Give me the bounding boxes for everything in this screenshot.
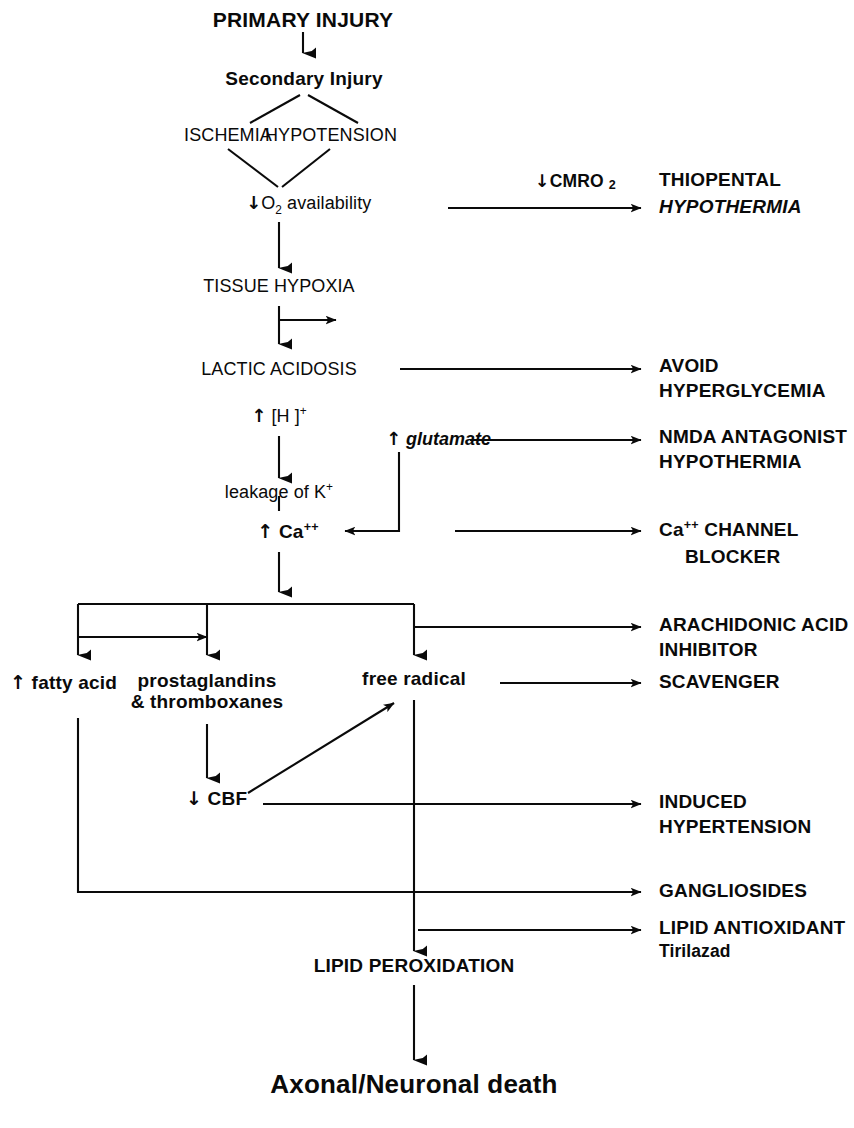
up-arrow-glyph: ↑ (251, 405, 266, 426)
label-arachidonic-acid: ARACHIDONIC ACID (659, 614, 848, 635)
label-ca-channel: Ca++ CHANNEL (659, 519, 799, 540)
node-cbf-decrease: ↓ CBF (186, 788, 247, 809)
label-tirilazad: Tirilazad (659, 942, 731, 962)
down-arrow-glyph: ↓ (246, 192, 261, 213)
ca-superscript: ++ (684, 518, 699, 532)
up-arrow-glyph: ↑ (386, 428, 401, 449)
glutamate-label: glutamate (401, 429, 491, 449)
node-calcium-increase: ↑ Ca++ (257, 521, 318, 542)
label-cmro2-decrease: ↓CMRO2 (535, 172, 616, 192)
node-h-ion-increase: ↑ [H ]+ (251, 406, 307, 426)
node-free-radical: free radical (362, 668, 466, 689)
down-arrow-glyph: ↓ (535, 171, 550, 191)
calcium-label: Ca (273, 521, 303, 542)
node-glutamate-increase: ↑ glutamate (386, 429, 491, 449)
o2-subscript: 2 (275, 203, 282, 217)
label-induced: INDUCED (659, 791, 747, 812)
node-leakage-of-k: leakage of K+ (225, 482, 333, 502)
edge-secondary-to-ischemia (250, 95, 300, 123)
edge-glutamate-to-calcium (345, 452, 399, 531)
label-hypothermia-thiopental: HYPOTHERMIA (659, 196, 802, 217)
h-ion-superscript: + (300, 404, 307, 418)
label-gangliosides: GANGLIOSIDES (659, 880, 807, 901)
prostaglandins-line-1: prostaglandins (131, 670, 284, 691)
cmro2-subscript: 2 (604, 178, 616, 192)
flowchart-canvas: PRIMARY INJURY Secondary Injury ISCHEMIA… (0, 0, 854, 1128)
calcium-superscript: ++ (304, 520, 319, 534)
up-arrow-glyph: ↑ (257, 520, 273, 542)
up-arrow-glyph: ↑ (10, 671, 26, 693)
label-hyperglycemia: HYPERGLYCEMIA (659, 380, 826, 401)
edge-hypotension-to-o2 (282, 149, 330, 187)
node-tissue-hypoxia: TISSUE HYPOXIA (203, 276, 354, 296)
label-hypertension: HYPERTENSION (659, 816, 811, 837)
node-prostaglandins-thromboxanes: prostaglandins & thromboxanes (131, 670, 284, 713)
k-ion-superscript: + (326, 480, 333, 494)
o2-label: O (261, 193, 275, 213)
label-thiopental: THIOPENTAL (659, 169, 781, 190)
prostaglandins-line-2: & thromboxanes (131, 691, 284, 712)
label-scavenger: SCAVENGER (659, 671, 780, 692)
fatty-acid-label: fatty acid (26, 672, 117, 693)
down-arrow-glyph: ↓ (186, 787, 202, 809)
edge-secondary-to-hypotension (308, 95, 358, 123)
leakage-label: leakage of K (225, 482, 326, 502)
cbf-label: CBF (202, 788, 247, 809)
label-nmda-antagonist: NMDA ANTAGONIST (659, 426, 847, 447)
cmro2-label: CMRO (550, 171, 604, 191)
h-bracket-label: [H ] (266, 406, 300, 426)
node-ischemia: ISCHEMIA (184, 125, 272, 145)
node-lactic-acidosis: LACTIC ACIDOSIS (201, 359, 357, 379)
node-hypotension: HYPOTENSION (265, 125, 397, 145)
label-arachidonic-inhibitor: INHIBITOR (659, 639, 758, 660)
node-primary-injury: PRIMARY INJURY (213, 8, 394, 32)
node-lipid-peroxidation: LIPID PEROXIDATION (314, 955, 515, 976)
node-o2-availability: ↓O2 availability (246, 193, 371, 213)
label-ca-channel-blocker: BLOCKER (685, 546, 780, 567)
node-secondary-injury: Secondary Injury (225, 68, 382, 89)
edge-cbf-to-free-radical (248, 703, 394, 793)
availability-label: availability (282, 193, 371, 213)
ca-prefix: Ca (659, 519, 684, 540)
edge-ischemia-to-o2 (228, 149, 278, 187)
label-lipid-antioxidant: LIPID ANTIOXIDANT (659, 917, 845, 938)
channel-word: CHANNEL (699, 519, 799, 540)
node-fatty-acid-increase: ↑ fatty acid (10, 672, 117, 693)
label-hypothermia-nmda: HYPOTHERMIA (659, 451, 802, 472)
label-avoid: AVOID (659, 355, 719, 376)
node-axonal-neuronal-death: Axonal/Neuronal death (270, 1070, 557, 1099)
